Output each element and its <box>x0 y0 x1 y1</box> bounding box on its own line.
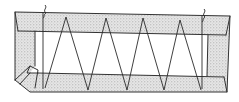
frame-diagram <box>0 0 239 102</box>
